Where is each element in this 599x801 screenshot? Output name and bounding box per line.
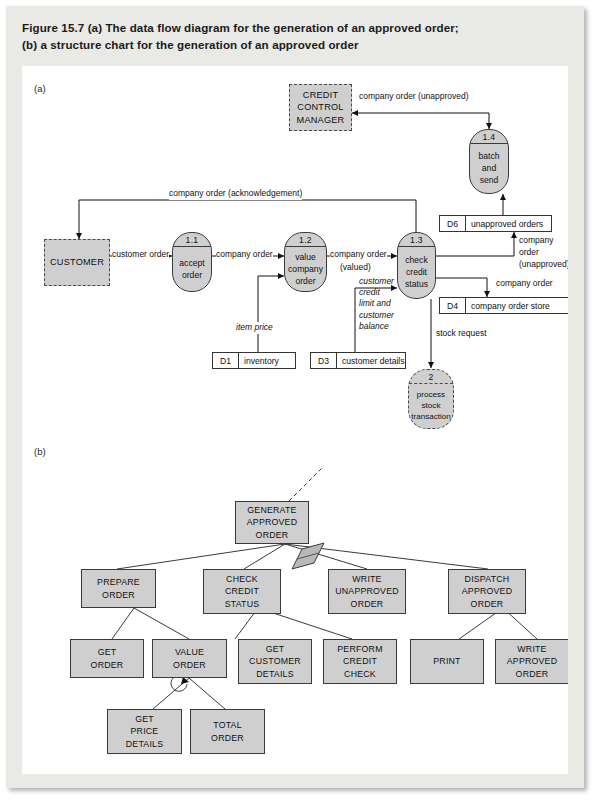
mod-3-l3: ORDER	[351, 598, 384, 610]
module-perform-credit-check: PERFORM CREDIT CHECK	[323, 639, 397, 684]
mod-4-l1: DISPATCH	[465, 573, 510, 585]
data-store-d1-name: inventory	[239, 353, 295, 368]
data-store-d6: D6 unapproved orders	[439, 215, 552, 232]
data-store-d4: D4 company order store	[439, 297, 568, 314]
process-1-4-line2: and	[482, 162, 496, 174]
cc-manager-line1: CREDIT	[303, 89, 338, 102]
mod-7-l2: CUSTOMER	[249, 655, 301, 667]
process-1-2-line3: order	[295, 275, 315, 287]
module-write-unapproved-order: WRITE UNAPPROVED ORDER	[328, 569, 406, 614]
process-1-3-line1: check	[405, 254, 427, 266]
flow-label-stock-request: stock request	[436, 328, 487, 340]
mod-7-l1: GET	[266, 643, 285, 655]
ccl-line2: credit	[359, 287, 411, 298]
flow-label-customer-credit-limit-balance: customer credit limit and customer balan…	[359, 276, 411, 332]
data-store-d1-key: D1	[213, 353, 239, 368]
flow-label-company-order-unapproved-top: company order (unapproved)	[359, 91, 469, 103]
cou-line2: order	[519, 246, 568, 258]
customer-label: CUSTOMER	[50, 256, 104, 269]
mod-9-l1: PRINT	[433, 655, 460, 667]
mod-7-l3: DETAILS	[256, 668, 293, 680]
module-generate-approved-order: GENERATE APPROVED ORDER	[235, 501, 309, 544]
mod-8-l3: CHECK	[344, 668, 376, 680]
module-check-credit-status: CHECK CREDIT STATUS	[203, 569, 281, 614]
mod-8-l2: CREDIT	[343, 655, 377, 667]
module-get-customer-details: GET CUSTOMER DETAILS	[238, 639, 312, 684]
mod-10-l2: APPROVED	[507, 655, 558, 667]
process-1-4-line1: batch	[478, 150, 499, 162]
flow-label-valued: (valued)	[340, 262, 371, 274]
mod-4-l3: ORDER	[471, 598, 504, 610]
mod-8-l1: PERFORM	[337, 643, 382, 655]
figure-panel: Figure 15.7 (a) The data flow diagram fo…	[6, 6, 584, 788]
mod-3-l2: UNAPPROVED	[335, 585, 399, 597]
mod-0-l1: GENERATE	[247, 504, 296, 516]
flow-label-item-price: item price	[236, 322, 273, 334]
ccl-line3: limit and	[359, 298, 411, 309]
ccl-line1: customer	[359, 276, 411, 287]
module-write-approved-order: WRITE APPROVED ORDER	[495, 639, 568, 684]
process-1-1-line2: order	[182, 269, 202, 281]
data-store-d6-name: unapproved orders	[466, 216, 551, 231]
caption-line-2: (b) a structure chart for the generation…	[22, 37, 568, 54]
section-a-label: (a)	[34, 83, 46, 94]
flow-label-company-order-unapproved-store: company order (unapproved)	[519, 234, 568, 270]
external-entity-credit-control-manager: CREDIT CONTROL MANAGER	[289, 84, 352, 131]
mod-6-l2: ORDER	[173, 659, 206, 671]
process-1-2: 1.2 value company order	[284, 232, 327, 292]
caption-line-1: Figure 15.7 (a) The data flow diagram fo…	[22, 20, 568, 37]
process-2-id: 2	[409, 371, 453, 383]
cou-line3: (unapproved)	[519, 258, 568, 270]
mod-11-l1: GET	[135, 713, 154, 725]
process-1-4: 1.4 batch and send	[469, 129, 509, 194]
diagram-canvas: (a) CREDIT CONTROL MANAGER CUSTOMER 1.4 …	[22, 66, 568, 774]
data-store-d4-name: company order store	[466, 298, 568, 313]
process-2-line1: process	[417, 389, 445, 400]
mod-0-l3: ORDER	[256, 529, 289, 541]
mod-5-l2: ORDER	[91, 659, 124, 671]
mod-2-l1: CHECK	[226, 573, 258, 585]
flow-label-company-order-2: company order	[330, 249, 387, 261]
process-1-2-line2: company	[288, 263, 323, 275]
mod-12-l1: TOTAL	[213, 719, 242, 731]
data-store-d4-key: D4	[440, 298, 466, 313]
mod-11-l3: DETAILS	[126, 738, 163, 750]
mod-1-l1: PREPARE	[97, 576, 140, 588]
ccl-line5: balance	[359, 321, 411, 332]
section-b-label: (b)	[34, 446, 46, 457]
process-2-line3: transaction	[411, 411, 451, 422]
data-store-d6-key: D6	[440, 216, 466, 231]
process-1-4-id: 1.4	[470, 131, 508, 143]
process-2-stock: 2 process stock transaction	[408, 369, 454, 429]
module-value-order: VALUE ORDER	[152, 639, 227, 678]
mod-5-l1: GET	[98, 646, 117, 658]
mod-10-l1: WRITE	[517, 643, 546, 655]
process-1-4-line3: send	[480, 174, 499, 186]
cou-line1: company	[519, 234, 568, 246]
data-store-d3-name: customer details	[337, 353, 405, 368]
data-store-d1: D1 inventory	[212, 352, 296, 369]
process-1-3-id: 1.3	[398, 234, 435, 246]
cc-manager-line3: MANAGER	[297, 114, 345, 127]
process-1-1: 1.1 accept order	[172, 232, 212, 292]
data-store-d3: D3 customer details	[310, 352, 406, 369]
mod-6-l1: VALUE	[175, 646, 204, 658]
mod-0-l2: APPROVED	[247, 516, 298, 528]
flow-label-customer-order: customer order	[112, 249, 169, 261]
flow-label-company-order-to-d4: company order	[496, 278, 553, 290]
data-couple-marker	[292, 543, 324, 569]
module-print: PRINT	[410, 639, 484, 684]
module-prepare-order: PREPARE ORDER	[81, 569, 156, 608]
mod-2-l2: CREDIT	[225, 585, 259, 597]
ccl-line4: customer	[359, 310, 411, 321]
cc-manager-line2: CONTROL	[297, 101, 343, 114]
figure-caption: Figure 15.7 (a) The data flow diagram fo…	[22, 20, 568, 53]
module-total-order: TOTAL ORDER	[190, 709, 265, 754]
external-entity-customer: CUSTOMER	[44, 239, 110, 286]
flow-label-company-order-1: company order	[216, 249, 273, 261]
mod-12-l2: ORDER	[211, 732, 244, 744]
process-2-line2: stock	[422, 400, 441, 411]
process-1-1-id: 1.1	[173, 234, 211, 246]
mod-4-l2: APPROVED	[462, 585, 513, 597]
process-1-2-line1: value	[295, 251, 316, 263]
